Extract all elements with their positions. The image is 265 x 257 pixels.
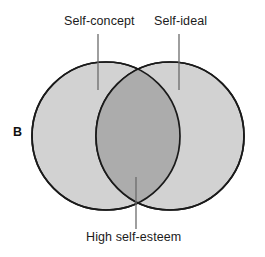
panel-label: B bbox=[13, 126, 22, 139]
label-high-self-esteem: High self-esteem bbox=[86, 231, 181, 244]
label-self-concept: Self-concept bbox=[64, 15, 135, 28]
venn-diagram-canvas bbox=[0, 0, 265, 257]
venn-diagram-figure: Self-concept Self-ideal High self-esteem… bbox=[0, 0, 265, 257]
label-self-ideal: Self-ideal bbox=[154, 15, 207, 28]
